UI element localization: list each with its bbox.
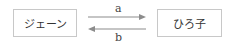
- edge-label-b: b: [115, 32, 122, 43]
- edge-label-a: a: [115, 3, 122, 14]
